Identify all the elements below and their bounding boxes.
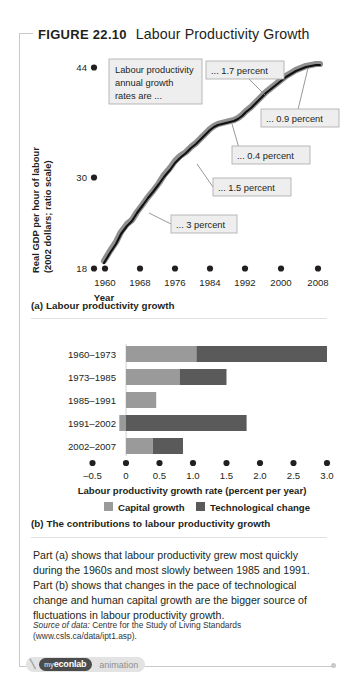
figure-name: Labour Productivity Growth (136, 26, 310, 42)
callout-1-5-percent: ... 1.5 percent (213, 178, 291, 196)
bar-legend: Capital growth Technological change (104, 502, 310, 513)
bar-category-label-2002-2007: 2002–2007 (68, 441, 116, 452)
bar-segment-technological-2002-2007 (153, 438, 183, 454)
frame-end-dot-icon (331, 663, 336, 668)
callout-3-percent-text: ... 3 percent (176, 220, 226, 230)
bar-segment-technological-1973-1985 (180, 369, 227, 385)
callout-1-5-percent-text: ... 1.5 percent (218, 183, 275, 193)
figure-number: FIGURE 22.10 (38, 27, 127, 42)
callout-intro-line2: annual growth (115, 78, 173, 88)
x-tick-dot-1992 (242, 265, 248, 271)
panel-b-bar-chart: 1960–1973 1973–1985 1985–1991 1991–2002 … (20, 326, 340, 516)
myeconlab-brand: econlab (54, 659, 87, 669)
callout-3-percent: ... 3 percent (171, 215, 237, 233)
x-tick-dot-1960 (102, 265, 108, 271)
bar-x-tick-label-2.5: 2.5 (287, 470, 300, 481)
bar-category-label-1991-2002: 1991–2002 (68, 418, 116, 429)
x-tick-dot-2000 (278, 265, 284, 271)
callout-intro-line3: rates are ... (115, 91, 162, 101)
callout-0-9-percent: ... 0.9 percent (261, 109, 339, 127)
panel-b-caption: (b) The contributions to labour producti… (31, 518, 270, 529)
bar-x-tick-label-1.0: 1.0 (186, 470, 199, 481)
callout-intro: Labour productivity annual growth rates … (109, 59, 202, 104)
bar-x-tick-dot-3.0 (324, 460, 330, 466)
divider-rule-1 (31, 318, 327, 319)
x-tick-dot-2008 (315, 265, 321, 271)
y-tick-dot-44 (91, 64, 97, 70)
y-axis-label-line2: (2002 dollars; ratio scale) (42, 160, 53, 273)
bar-segment-technological-1960-1973 (196, 346, 327, 362)
bar-x-tick-dot-2.5 (290, 460, 296, 466)
x-tick-label-2008: 2008 (307, 277, 328, 288)
bar-x-tick-dot-2.0 (257, 460, 263, 466)
pearson-logo-icon: ╲ (30, 660, 35, 669)
x-tick-label-1984: 1984 (199, 277, 221, 288)
bar-x-tick-label-3.0: 3.0 (320, 470, 333, 481)
callout-0-4-percent: ... 0.4 percent (232, 146, 310, 164)
myeconlab-prefix: my (44, 661, 54, 668)
bar-segment-technological-1991-2002 (126, 415, 247, 431)
callout-intro-line1: Labour productivity (115, 65, 194, 75)
bar-x-axis-label: Labour productivity growth rate (percent… (78, 485, 307, 496)
bar-segment-capital-1991-2002 (119, 415, 126, 431)
x-tick-dot-1968 (137, 265, 143, 271)
figure-title: FIGURE 22.10Labour Productivity Growth (38, 26, 310, 42)
bar-x-tick-dot-0 (123, 460, 129, 466)
bar-x-tick-dot--0.5 (89, 460, 95, 466)
y-tick-label-44: 44 (76, 62, 87, 73)
bar-x-tick-label-0.5: 0.5 (153, 470, 166, 481)
x-tick-dot-1984 (207, 265, 213, 271)
source-label: Source of data: (33, 620, 90, 630)
legend-swatch-technological-change (196, 502, 205, 511)
bar-x-tick-label-1.5: 1.5 (220, 470, 233, 481)
media-bar[interactable]: ╲ myeconlab animation (26, 657, 145, 672)
myeconlab-pill[interactable]: ╲ myeconlab animation (26, 657, 145, 672)
x-tick-label-2000: 2000 (270, 277, 291, 288)
figure-description: Part (a) shows that labour productivity … (33, 548, 325, 623)
bar-segment-capital-1985-1991 (126, 392, 156, 408)
y-tick-dot-18 (91, 265, 97, 271)
x-tick-label-1960: 1960 (94, 277, 115, 288)
bar-category-label-1973-1985: 1973–1985 (68, 372, 116, 383)
bar-x-tick-label-0: 0 (123, 470, 128, 481)
bar-x-tick-dot-1.0 (190, 460, 196, 466)
leader-line-1-5-percent (197, 164, 213, 187)
bar-segment-capital-1960-1973 (126, 346, 196, 362)
x-tick-label-1968: 1968 (129, 277, 150, 288)
x-tick-label-1976: 1976 (164, 277, 185, 288)
callout-0-9-percent-text: ... 0.9 percent (266, 114, 323, 124)
leader-line-3-percent (149, 213, 171, 224)
y-tick-label-30: 30 (76, 172, 87, 183)
source-text: Centre for the Study of Living Standards (90, 620, 241, 630)
y-tick-label-18: 18 (76, 263, 87, 274)
callout-0-4-percent-text: ... 0.4 percent (237, 151, 294, 161)
media-type-label: animation (99, 660, 138, 670)
panel-a-line-chart: 44 30 18 Real GDP per hour of labour (20… (20, 48, 340, 308)
x-tick-label-1992: 1992 (234, 277, 255, 288)
panel-a-caption: (a) Labour productivity growth (31, 300, 175, 311)
frame-bracket-top (19, 33, 33, 34)
bar-x-tick-label-2.0: 2.0 (253, 470, 266, 481)
y-axis-label-line1: Real GDP per hour of labour (30, 147, 41, 273)
y-tick-dot-30 (91, 174, 97, 180)
bar-x-tick-dot-0.5 (156, 460, 162, 466)
legend-label-technological-change: Technological change (210, 502, 310, 513)
legend-label-capital-growth: Capital growth (118, 502, 185, 513)
callout-1-7-percent: ... 1.7 percent (206, 61, 284, 79)
bar-x-tick-label--0.5: –0.5 (83, 470, 102, 481)
bar-category-label-1960-1973: 1960–1973 (68, 349, 116, 360)
source-url: (www.csls.ca/data/ipt1.asp). (33, 631, 137, 641)
bar-x-tick-dot-1.5 (223, 460, 229, 466)
callout-1-7-percent-text: ... 1.7 percent (211, 66, 268, 76)
legend-swatch-capital-growth (104, 502, 113, 511)
bar-segment-capital-1973-1985 (126, 369, 180, 385)
x-tick-dot-1976 (172, 265, 178, 271)
myeconlab-logo: myeconlab (39, 658, 92, 671)
bar-category-label-1985-1991: 1985–1991 (68, 395, 116, 406)
divider-rule-2 (31, 537, 327, 538)
bar-segment-capital-2002-2007 (126, 438, 153, 454)
source-note: Source of data: Centre for the Study of … (33, 620, 325, 643)
